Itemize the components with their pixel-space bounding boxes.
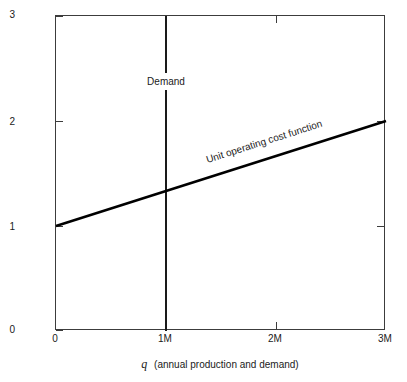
x-axis-variable: q: [141, 357, 147, 371]
x-tick-label-3m: 3M: [365, 334, 405, 344]
x-axis-title: q (annual production and demand): [55, 358, 385, 371]
unit-operating-cost-line: [56, 121, 386, 226]
chart-figure: 3 2 1 0 0 1M 2M 3M p ($ per unit) q (ann…: [0, 0, 407, 382]
y-tick-label-1: 1: [0, 222, 15, 232]
x-axis-units: (annual production and demand): [154, 359, 299, 370]
y-tick-label-3: 3: [0, 10, 15, 20]
y-tick-label-0: 0: [0, 325, 15, 335]
demand-annotation: Demand: [141, 73, 191, 90]
x-tick-label-1m: 1M: [145, 334, 185, 344]
x-tick-label-0: 0: [35, 334, 75, 344]
plot-area: Demand Unit operating cost function: [55, 15, 385, 330]
x-tick-label-2m: 2M: [255, 334, 295, 344]
series-layer: [56, 16, 386, 331]
y-tick-label-2: 2: [0, 117, 15, 127]
